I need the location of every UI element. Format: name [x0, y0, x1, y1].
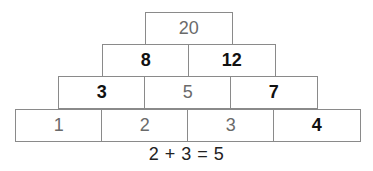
pyramid-cell: 4	[273, 109, 361, 142]
pyramid-cell-top: 20	[145, 12, 233, 45]
pyramid-cell: 8	[102, 44, 190, 77]
example-equation-caption: 2 + 3 = 5	[0, 144, 373, 165]
pyramid-cell: 3	[187, 109, 275, 142]
pyramid-cell: 5	[144, 76, 232, 109]
pyramid-cell: 3	[58, 76, 146, 109]
pyramid-row-1: 20	[145, 12, 233, 45]
pyramid-row-2: 8 12	[102, 44, 276, 77]
pyramid-row-3: 3 5 7	[58, 76, 318, 109]
pyramid-cell: 1	[15, 109, 103, 142]
pyramid-row-4: 1 2 3 4	[15, 109, 361, 142]
pyramid-cell: 2	[101, 109, 189, 142]
pyramid-cell: 12	[188, 44, 276, 77]
cropped-text-fragment	[14, 0, 100, 2]
pyramid-cell: 7	[230, 76, 318, 109]
